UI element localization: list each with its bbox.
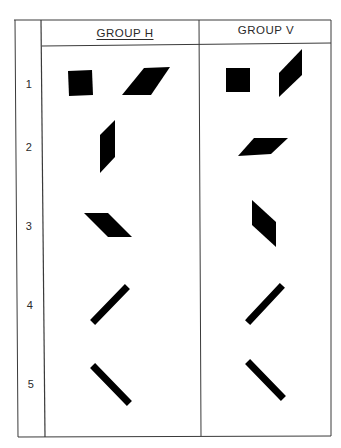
row-number-4: 4 (23, 299, 37, 311)
column-header-group-v-text: GROUP V (238, 24, 294, 36)
row-number-3: 3 (22, 220, 36, 232)
table-bottom-border (18, 436, 331, 437)
shape-parallelogram-h3 (84, 213, 132, 237)
column-header-group-h-text: GROUP H (97, 27, 154, 39)
shape-bar-h4 (95, 289, 125, 320)
column-header-group-h: GROUP H (50, 27, 200, 39)
shape-square-v1 (226, 68, 250, 92)
row-number-5: 5 (24, 378, 38, 390)
column-header-group-v: GROUP V (191, 24, 341, 36)
shape-parallelogram-h2 (100, 120, 115, 173)
shape-parallelogram-v2 (238, 138, 288, 156)
header-divider (42, 43, 331, 46)
shape-parallelogram-v1 (279, 49, 302, 97)
row-number-1: 1 (22, 78, 36, 90)
shape-parallelogram-h1 (122, 67, 170, 95)
row-number-2: 2 (22, 141, 36, 153)
row-number-divider (41, 20, 45, 437)
shape-parallelogram-v3 (252, 200, 276, 247)
table-grid (0, 0, 341, 448)
shape-bar-v5 (250, 364, 281, 396)
shape-classification-figure: GROUP H GROUP V 1 2 3 4 5 (0, 0, 341, 448)
shape-bar-v4 (250, 288, 280, 320)
group-divider (199, 20, 201, 436)
shape-square-h1 (68, 70, 93, 96)
table-left-border (15, 20, 18, 437)
shape-bar-h5 (95, 368, 127, 401)
